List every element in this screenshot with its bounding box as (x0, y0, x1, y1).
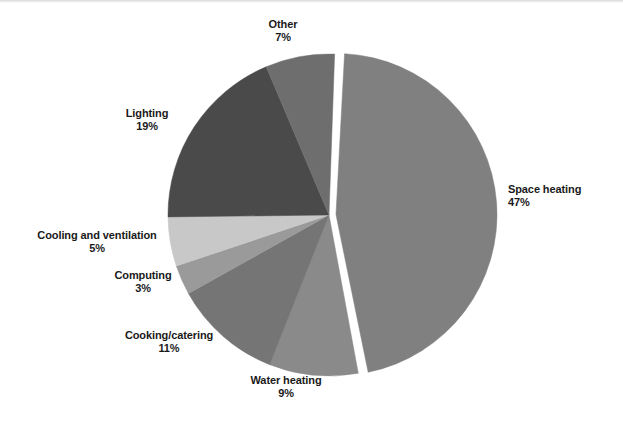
slice-label-space-heating-name: Space heating (508, 183, 620, 196)
slice-label-other-name: Other (228, 18, 338, 31)
slice-label-computing: Computing 3% (78, 269, 208, 295)
slice-label-cooling-and-ventilation: Cooling and ventilation 5% (12, 229, 182, 255)
slice-label-cooling-and-ventilation-value: 5% (12, 242, 182, 255)
pie-slices-group (168, 54, 497, 376)
slice-label-water-heating-name: Water heating (216, 374, 356, 387)
pie-chart-canvas (0, 0, 623, 425)
slice-label-other-value: 7% (228, 31, 338, 44)
slice-label-cooking-catering-name: Cooking/catering (94, 329, 244, 342)
slice-label-lighting-value: 19% (92, 120, 202, 133)
slice-label-other: Other 7% (228, 18, 338, 44)
slice-label-lighting: Lighting 19% (92, 107, 202, 133)
pie-slice-space-heating[interactable] (336, 54, 497, 373)
slice-label-cooking-catering-value: 11% (94, 342, 244, 355)
slice-label-computing-value: 3% (78, 282, 208, 295)
slice-label-lighting-name: Lighting (92, 107, 202, 120)
slice-label-water-heating-value: 9% (216, 387, 356, 400)
slice-label-space-heating-value: 47% (508, 196, 620, 209)
slice-label-cooking-catering: Cooking/catering 11% (94, 329, 244, 355)
slice-label-water-heating: Water heating 9% (216, 374, 356, 400)
slice-label-computing-name: Computing (78, 269, 208, 282)
slice-label-space-heating: Space heating 47% (508, 183, 620, 209)
pie-chart-figure: Other 7% Lighting 19% Cooling and ventil… (0, 0, 623, 425)
slice-label-cooling-and-ventilation-name: Cooling and ventilation (12, 229, 182, 242)
